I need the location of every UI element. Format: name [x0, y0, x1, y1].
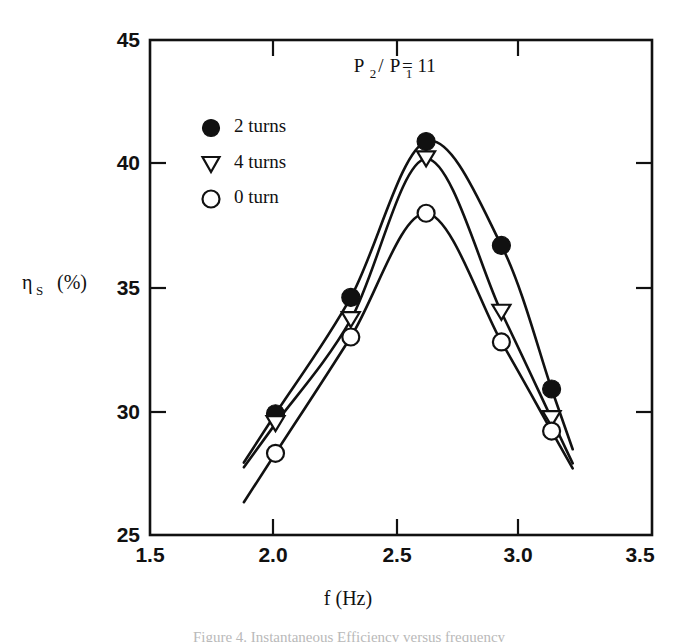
x-tick-label-1-5: 1.5	[135, 543, 165, 566]
data-curves	[244, 141, 573, 502]
y-axis-symbol: η	[22, 271, 32, 294]
legend-label-4-turns: 4 turns	[234, 151, 286, 172]
figure-root: 45 40 35 30 25 1.5 2.0 2.5 3.0 3.5 f (Hz…	[0, 0, 698, 642]
y-tick-label-45: 45	[117, 28, 141, 51]
data-markers-0-turn	[267, 205, 560, 462]
legend: 2 turns 4 turns 0 turn	[203, 115, 287, 207]
annotation-p-symbol-1: P	[354, 55, 365, 76]
data-point	[543, 423, 560, 440]
y-tick-label-35: 35	[117, 276, 141, 299]
legend-marker-down-triangle	[203, 157, 220, 172]
x-axis-ticks	[273, 40, 518, 535]
annotation-subscript-2: 2	[370, 66, 377, 81]
x-tick-label-3-5: 3.5	[625, 543, 655, 566]
y-axis-title: η S (%)	[22, 271, 87, 298]
legend-label-0-turn: 0 turn	[234, 186, 279, 207]
data-point	[493, 333, 510, 350]
curve-2-turns	[244, 141, 573, 463]
data-point	[543, 380, 561, 398]
legend-label-2-turns: 2 turns	[234, 115, 286, 136]
legend-marker-filled-circle	[203, 120, 220, 137]
legend-marker-open-circle	[203, 191, 220, 208]
x-tick-label-2-0: 2.0	[258, 543, 287, 566]
x-tick-label-3-0: 3.0	[503, 543, 532, 566]
curve-4-turns	[244, 159, 573, 467]
x-tick-label-2-5: 2.5	[382, 543, 412, 566]
annotation-p-symbol-2: P	[390, 55, 401, 76]
data-point	[418, 205, 435, 222]
data-point	[342, 288, 360, 306]
y-tick-label-40: 40	[117, 151, 140, 174]
data-point	[267, 445, 284, 462]
data-point	[417, 132, 435, 150]
pressure-ratio-annotation: P 2 / P 1 = 11	[354, 55, 436, 81]
y-axis-subscript: S	[36, 283, 43, 298]
x-axis-title: f (Hz)	[324, 587, 372, 610]
efficiency-vs-frequency-chart: 45 40 35 30 25 1.5 2.0 2.5 3.0 3.5 f (Hz…	[0, 0, 698, 642]
data-point	[342, 329, 359, 346]
annotation-equals-value: = 11	[402, 55, 436, 76]
y-tick-label-30: 30	[117, 400, 140, 423]
y-axis-ticks	[150, 163, 652, 412]
data-markers-4-turns	[267, 151, 561, 431]
figure-caption: Figure 4. Instantaneous Efficiency versu…	[0, 629, 698, 642]
plot-frame	[150, 40, 652, 535]
y-axis-units: (%)	[57, 271, 87, 294]
x-axis-title-label: f (Hz)	[324, 587, 372, 610]
data-point	[417, 151, 435, 166]
data-point	[492, 305, 510, 320]
data-point	[492, 236, 510, 254]
annotation-slash: /	[378, 55, 384, 76]
